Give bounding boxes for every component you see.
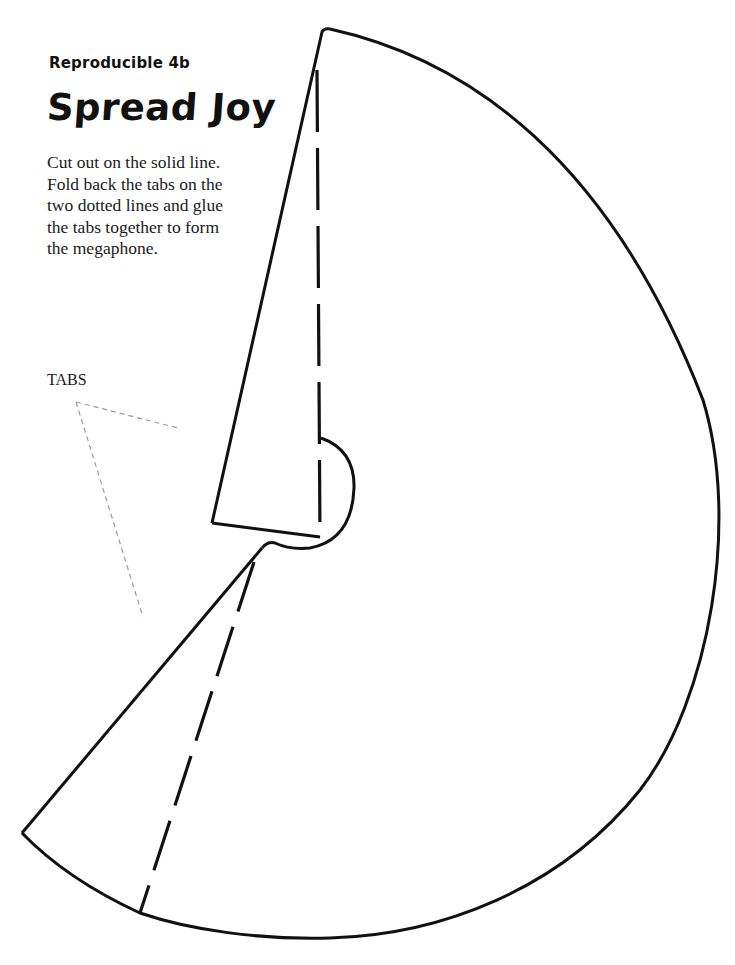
- instruction-line: Cut out on the solid line.: [47, 152, 307, 174]
- page-title: Spread Joy: [45, 86, 277, 129]
- lower-tab-outline: [22, 548, 262, 833]
- upper-fold-line: [317, 70, 320, 537]
- reproducible-label: Reproducible 4b: [49, 54, 190, 72]
- instruction-line: the megaphone.: [47, 238, 307, 260]
- tabs-leader-line-upper: [76, 402, 178, 428]
- megaphone-cutout-pattern: [0, 0, 735, 965]
- instruction-line: the tabs together to form: [47, 217, 307, 239]
- instruction-line: Fold back the tabs on the: [47, 174, 307, 196]
- worksheet-page: Reproducible 4b Spread Joy Cut out on th…: [0, 0, 735, 965]
- instructions-text: Cut out on the solid line. Fold back the…: [47, 152, 307, 260]
- tabs-callout-label: TABS: [47, 371, 87, 389]
- lower-fold-line: [140, 562, 254, 913]
- instruction-line: two dotted lines and glue: [47, 195, 307, 217]
- upper-tab-bottom-edge: [212, 523, 320, 537]
- tabs-leader-line-lower: [76, 402, 143, 617]
